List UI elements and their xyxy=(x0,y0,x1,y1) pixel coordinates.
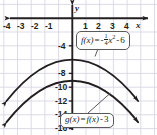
callout-g-rhs-function: f(x) xyxy=(87,115,100,125)
callout-g-equals: = xyxy=(80,114,87,124)
parabola-translation-figure: -4 -3 -2 -1 1 2 3 4 x y -4 -8 -10 -12 -1… xyxy=(0,0,157,135)
x-tick-label-2: 2 xyxy=(96,22,101,31)
x-axis-name: x xyxy=(136,21,141,30)
y-tick-label-neg10: -10 xyxy=(55,83,67,92)
callout-f-equals: = xyxy=(94,35,101,45)
y-axis-name: y xyxy=(75,4,79,13)
y-tick-label-neg4: -4 xyxy=(58,42,66,51)
y-tick-label-neg12: -12 xyxy=(55,97,67,106)
x-tick-label-neg3: -3 xyxy=(17,22,25,31)
callout-f-equation: f(x)=-14x2-6 xyxy=(76,31,130,50)
x-tick-label-neg2: -2 xyxy=(31,22,39,31)
callout-f-constant: 6 xyxy=(120,35,125,45)
x-tick-label-4: 4 xyxy=(124,22,129,31)
x-tick-label-3: 3 xyxy=(110,22,115,31)
callout-g-equation: g(x)=f(x)-3 xyxy=(60,113,114,128)
callout-g-lhs: g(x) xyxy=(65,115,80,125)
callout-f-lhs: f(x) xyxy=(81,36,94,46)
x-tick-label-1: 1 xyxy=(83,22,88,31)
x-tick-label-neg4: -4 xyxy=(3,22,11,31)
x-tick-label-neg1: -1 xyxy=(45,22,53,31)
y-tick-label-neg8: -8 xyxy=(58,69,66,78)
callout-g-constant: 3 xyxy=(104,114,109,124)
